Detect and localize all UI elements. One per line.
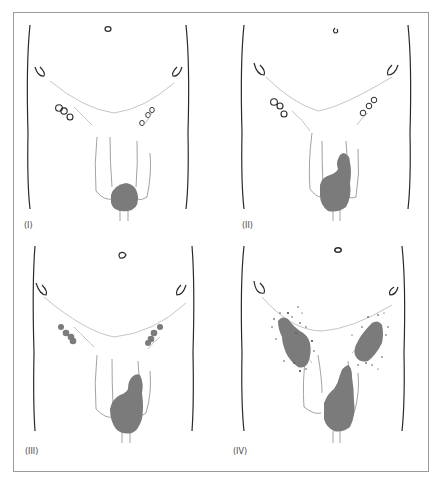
left-iliac-spine (254, 281, 265, 293)
panel-label-iv: (IV) (233, 447, 247, 456)
left-nodal-mass (278, 317, 311, 367)
right-nodes (140, 107, 155, 125)
right-iliac-spine (390, 287, 399, 295)
panel-ii: (II) (222, 13, 430, 243)
left-iliac-spine (36, 283, 47, 295)
left-nodes (271, 99, 287, 117)
right-flank-line (186, 25, 189, 209)
right-nodal-mass (354, 321, 383, 361)
left-iliac-spine (254, 63, 265, 75)
torso-diagram-iii (14, 243, 222, 473)
left-iliac-spine (35, 67, 45, 76)
right-iliac-spine (388, 65, 399, 75)
panel-i: (I) (14, 13, 222, 243)
umbilicus-icon (119, 252, 126, 258)
panel-iv: (IV) (222, 243, 430, 473)
umbilicus-icon (334, 28, 338, 33)
primary-lesion (324, 365, 355, 432)
figure-frame: (I) (13, 12, 429, 472)
panel-label-iii: (III) (25, 447, 38, 456)
torso-diagram-iv (222, 243, 430, 473)
torso-diagram-ii (222, 13, 430, 243)
left-nodes (56, 105, 73, 120)
inguinal-ligament (50, 81, 174, 113)
left-flank-line (27, 25, 30, 209)
right-iliac-spine (177, 285, 187, 295)
right-nodes (360, 97, 377, 116)
right-iliac-spine (173, 67, 183, 76)
umbilicus-icon (335, 248, 341, 253)
torso-diagram-i (14, 13, 222, 243)
primary-lesion (110, 374, 143, 433)
panel-label-i: (I) (24, 221, 33, 230)
umbilicus-icon (105, 27, 111, 32)
primary-lesion (320, 153, 351, 212)
panel-iii: (III) (14, 243, 222, 473)
panel-label-ii: (II) (242, 221, 253, 230)
primary-lesion (111, 183, 138, 211)
